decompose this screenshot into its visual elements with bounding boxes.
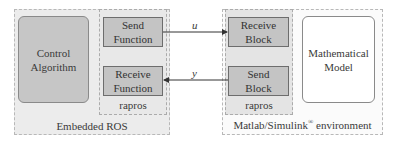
signal-y-label: y: [192, 67, 197, 79]
signal-u-label: u: [192, 19, 198, 31]
